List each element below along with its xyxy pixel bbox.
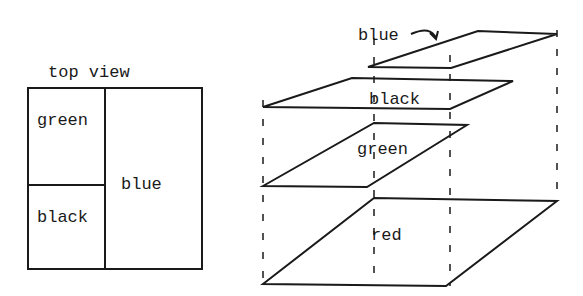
top-view-label-green: green [37, 112, 88, 129]
top-view-label-blue: blue [121, 176, 162, 193]
layer-red [263, 198, 557, 286]
layer-label-red: red [371, 227, 402, 244]
layer-label-blue: blue [358, 27, 399, 44]
diagram-canvas [0, 0, 583, 296]
top-view-label-black: black [37, 209, 88, 226]
layer-label-green: green [357, 141, 408, 158]
top-view-title: top view [48, 64, 130, 81]
layer-label-black: black [369, 91, 420, 108]
